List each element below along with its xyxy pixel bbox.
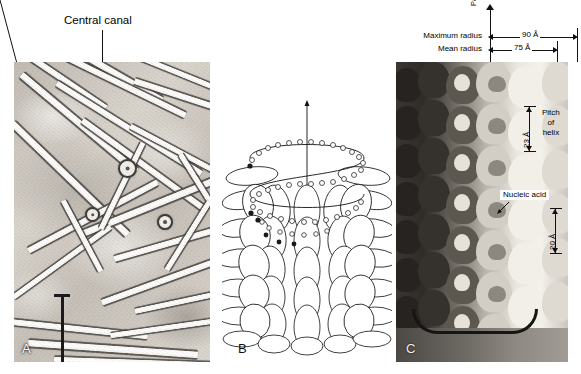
mean-radius-label: Mean radius bbox=[430, 44, 482, 53]
scale-bar bbox=[54, 294, 70, 362]
nucleic-acid-label: Nucleic acid bbox=[500, 190, 549, 200]
panel-a-letter: A bbox=[22, 341, 31, 356]
pitch-value: 23 Å bbox=[522, 132, 531, 148]
panel-c-model-photo: C bbox=[396, 62, 568, 362]
panel-b-letter: B bbox=[238, 341, 247, 356]
panel-c-letter: C bbox=[406, 341, 415, 356]
panel-b-diagram: B bbox=[222, 96, 392, 364]
mean-radius-value: 75 Å bbox=[512, 43, 532, 52]
mean-radius-dimension: Mean radius 75 Å bbox=[420, 45, 560, 55]
pitch-label-line3: helix bbox=[542, 128, 560, 138]
maximum-radius-value: 90 Å bbox=[520, 30, 540, 39]
nucleic-acid-arrow bbox=[496, 201, 510, 215]
figure-tmv-structure: Central canal bbox=[0, 0, 581, 374]
pitch-label-line2: of bbox=[542, 118, 560, 128]
maximum-radius-dimension: Maximum radius 90 Å bbox=[420, 32, 578, 42]
central-canal-label: Central canal bbox=[64, 14, 132, 26]
micrograph-grain bbox=[14, 62, 210, 362]
pitch-of-helix-label: Pitch of helix bbox=[542, 108, 560, 138]
rise-value: 20 Å bbox=[548, 234, 557, 250]
maximum-radius-extension-line bbox=[577, 28, 578, 62]
pitch-label-line1: Pitch bbox=[542, 108, 560, 118]
mean-radius-extension-line bbox=[557, 41, 558, 62]
maximum-radius-label: Maximum radius bbox=[416, 31, 482, 40]
rna-strand-wire bbox=[412, 309, 538, 334]
panel-a-micrograph: A bbox=[14, 62, 210, 362]
particle-axis-label: Particle axis bbox=[470, 0, 478, 6]
tmv-helix-drawing bbox=[222, 96, 392, 364]
